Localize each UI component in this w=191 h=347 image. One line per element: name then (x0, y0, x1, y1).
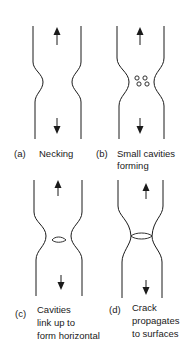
panel-a-tag: (a) (14, 148, 26, 159)
tension-arrow-down-icon (143, 280, 150, 295)
specimen-left-edge (33, 26, 43, 139)
panel-b-caption-line2: forming (117, 160, 149, 171)
panel-d-specimen (118, 180, 163, 298)
specimen-right-edge (154, 26, 164, 139)
crack-icon (131, 233, 152, 239)
panel-d-caption-line2: propagates (132, 315, 180, 326)
specimen-left-edge (34, 180, 46, 296)
specimen-right-edge (152, 180, 163, 298)
panel-a-specimen (33, 26, 81, 139)
tension-arrow-down-icon (58, 275, 65, 290)
panel-c-caption-line3: form horizontal (37, 330, 100, 341)
panel-b-caption-line1: Small cavities (117, 148, 175, 159)
tension-arrow-up-icon (55, 180, 62, 196)
panel-c-specimen (34, 180, 82, 296)
panel-d-caption-line3: to surfaces (132, 328, 178, 339)
panel-b-specimen (117, 26, 164, 139)
panel-c-caption-line2: link up to (37, 317, 75, 328)
panel-a-caption: Necking (39, 148, 73, 159)
fracture-diagram (0, 0, 191, 347)
tension-arrow-up-icon (54, 27, 61, 45)
tension-arrow-down-icon (54, 118, 61, 134)
specimen-left-edge (118, 180, 131, 298)
panel-c-tag: (c) (15, 308, 26, 319)
panel-c-caption-line1: Cavities (37, 304, 71, 315)
cavities-icon (135, 76, 149, 86)
panel-d-tag: (d) (109, 304, 121, 315)
linked-cavity-icon (52, 237, 66, 242)
panel-d-caption-line1: Crack (132, 302, 157, 313)
specimen-right-edge (71, 180, 82, 296)
tension-arrow-up-icon (137, 27, 144, 45)
tension-arrow-down-icon (137, 118, 144, 134)
panel-b-tag: (b) (96, 148, 108, 159)
tension-arrow-up-icon (143, 183, 150, 199)
specimen-left-edge (117, 26, 129, 139)
specimen-right-edge (72, 26, 81, 139)
